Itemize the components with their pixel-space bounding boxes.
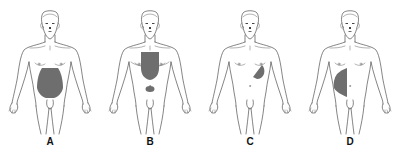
figure-d: D [309,11,391,147]
figure-label-a: A [46,136,53,147]
shaded-region-d [334,68,347,97]
shaded-region-c [253,65,264,79]
figure-a: A [9,11,91,147]
shaded-region-b-periumbilical [146,86,155,92]
body-diagram-svg: A B C D [0,0,400,157]
shaded-region-b-chest [141,52,159,80]
figure-label-c: C [246,136,253,147]
shaded-region-a [37,68,63,98]
figure-label-d: D [346,136,353,147]
figure-c: C [209,11,291,147]
figure-label-b: B [146,136,153,147]
figure-row: A B C D [0,0,400,157]
figure-b: B [109,11,191,147]
